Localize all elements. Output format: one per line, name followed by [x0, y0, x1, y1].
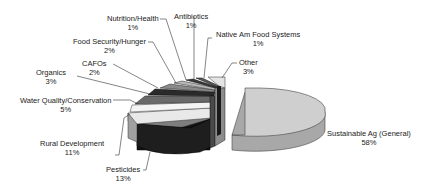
label-name: Other: [239, 58, 258, 67]
label-pct: 13%: [106, 174, 140, 183]
label-name: Native Am Food Systems: [216, 30, 300, 39]
label-antibiotics: Antibiotics 1%: [174, 12, 208, 30]
label-pct: 5%: [20, 105, 111, 114]
label-pct: 3%: [239, 67, 258, 76]
label-pct: 1%: [174, 21, 208, 30]
label-nutrition-health: Nutrition/Health 1%: [107, 14, 159, 32]
label-name: CAFOs: [82, 59, 107, 68]
label-name: Water Quality/Conservation: [20, 96, 111, 105]
label-pct: 2%: [73, 46, 146, 55]
label-pct: 2%: [82, 68, 107, 77]
label-name: Antibiotics: [174, 12, 208, 21]
label-name: Pesticides: [106, 165, 140, 174]
label-water-quality: Water Quality/Conservation 5%: [20, 96, 111, 114]
label-cafos: CAFOs 2%: [82, 59, 107, 77]
label-sustainable-ag: Sustainable Ag (General) 58%: [327, 129, 411, 147]
label-other: Other 3%: [239, 58, 258, 76]
label-name: Nutrition/Health: [107, 14, 159, 23]
label-organics: Organics 3%: [36, 68, 66, 86]
label-rural-development: Rural Development 11%: [40, 139, 104, 157]
label-pct: 1%: [107, 23, 159, 32]
label-pct: 1%: [216, 39, 300, 48]
label-native-am-food-systems: Native Am Food Systems 1%: [216, 30, 300, 48]
label-food-security: Food Security/Hunger 2%: [73, 37, 146, 55]
label-name: Food Security/Hunger: [73, 37, 146, 46]
label-pct: 58%: [327, 138, 411, 147]
label-name: Organics: [36, 68, 66, 77]
slice-sustainable-ag: [232, 88, 325, 151]
label-pct: 3%: [36, 77, 66, 86]
label-pesticides: Pesticides 13%: [106, 165, 140, 183]
slices-left-cluster: [128, 77, 225, 154]
label-pct: 11%: [40, 148, 104, 157]
label-name: Rural Development: [40, 139, 104, 148]
label-name: Sustainable Ag (General): [327, 129, 411, 138]
